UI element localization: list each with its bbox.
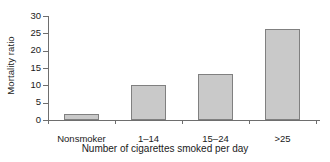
x-axis-tick <box>182 120 183 124</box>
bar <box>265 29 300 120</box>
y-axis-tick: 25 <box>43 33 48 34</box>
bar <box>131 85 166 120</box>
bar-chart-figure: Mortality ratio 0 5 10 15 20 25 30 <box>0 0 330 162</box>
y-axis-tick: 10 <box>43 85 48 86</box>
bar <box>198 74 233 120</box>
y-axis-tick-label: 30 <box>30 10 41 22</box>
y-axis-title-text: Mortality ratio <box>5 36 16 95</box>
y-axis-tick-label: 15 <box>30 62 41 74</box>
y-axis-tick-label: 0 <box>36 114 41 126</box>
y-axis-tick: 5 <box>43 103 48 104</box>
y-axis-spine <box>48 16 49 121</box>
plot-area: 0 5 10 15 20 25 30 Nonsmoker <box>48 10 320 122</box>
bar <box>64 114 99 120</box>
y-axis-tick-label: 20 <box>30 44 41 56</box>
y-axis-tick: 20 <box>43 51 48 52</box>
y-axis-tick: 30 <box>43 16 48 17</box>
x-axis-tick <box>48 120 49 124</box>
y-axis-tick-label: 25 <box>30 27 41 39</box>
y-axis-tick: 15 <box>43 68 48 69</box>
y-axis-tick-label: 10 <box>30 79 41 91</box>
y-axis-title: Mortality ratio <box>0 0 20 130</box>
x-axis-tick <box>316 120 317 124</box>
x-axis-tick <box>115 120 116 124</box>
x-axis-tick <box>249 120 250 124</box>
x-axis-spine <box>48 120 320 121</box>
x-axis-title: Number of cigarettes smoked per day <box>0 143 330 154</box>
y-axis-tick-label: 5 <box>36 96 41 108</box>
